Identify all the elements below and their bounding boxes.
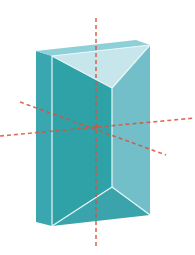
left-face (36, 51, 52, 226)
triangular-prism (36, 40, 150, 226)
prism-svg (0, 0, 195, 255)
prism-diagram: Triangular prism with dashed symmetry ax… (0, 0, 195, 255)
axes-origin (94, 125, 98, 129)
